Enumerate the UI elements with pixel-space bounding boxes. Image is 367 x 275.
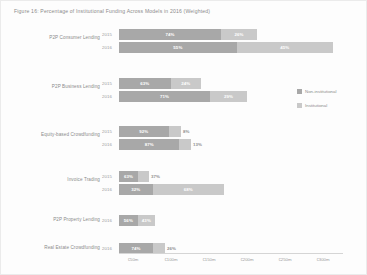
stacked-bar[interactable]: 74%26% xyxy=(119,29,257,40)
bar-value-label: 56% xyxy=(124,218,133,223)
category-label: Real Estate Crowdfunding xyxy=(44,245,100,250)
legend-item-institutional[interactable]: Institutional xyxy=(297,103,365,108)
bar-value-label: 24% xyxy=(181,81,190,86)
bar-segment-institutional[interactable]: 37% xyxy=(149,171,177,182)
year-label: 2016 xyxy=(102,45,112,50)
category-label: P2P Property Lending xyxy=(53,217,100,222)
stacked-bar[interactable]: 55%45% xyxy=(119,42,333,53)
year-label: 2016 xyxy=(102,94,112,99)
bar-value-label: 26% xyxy=(167,246,176,251)
bar-segment-institutional[interactable]: 13% xyxy=(191,139,219,150)
x-axis-line xyxy=(119,253,343,254)
bar-segment-institutional[interactable]: 68% xyxy=(153,184,224,195)
bar-segment-institutional[interactable]: 45% xyxy=(237,42,333,53)
bar-segment-non-institutional[interactable]: 71% xyxy=(119,91,210,102)
x-axis-tick-label: €200m xyxy=(240,257,253,262)
bar-value-label: 26% xyxy=(235,32,244,37)
bar-segment-non-institutional[interactable]: 32% xyxy=(119,184,153,195)
stacked-bar[interactable]: 63%37% xyxy=(119,171,149,182)
bar-value-label: 63% xyxy=(140,81,149,86)
bar-segment-non-institutional[interactable]: 63% xyxy=(119,171,138,182)
stacked-bar[interactable]: 56%43% xyxy=(119,215,155,226)
bar-segment-institutional-fill[interactable] xyxy=(138,171,149,182)
legend-label: Institutional xyxy=(305,103,327,108)
x-axis-tick-label: €50m xyxy=(128,257,139,262)
year-label: 2015 xyxy=(102,174,112,179)
x-axis-tick-label: €250m xyxy=(278,257,291,262)
bar-segment-institutional[interactable]: 29% xyxy=(210,91,247,102)
bar-value-label: 32% xyxy=(131,187,140,192)
year-label: 2015 xyxy=(102,32,112,37)
category-label: Invoice Trading xyxy=(67,177,100,182)
x-axis-tick-label: €100m xyxy=(164,257,177,262)
bar-segment-institutional-fill[interactable] xyxy=(179,139,191,150)
year-label: 2016 xyxy=(102,218,112,223)
bar-value-label: 43% xyxy=(142,218,151,223)
stacked-bar[interactable]: 92%8% xyxy=(119,126,181,137)
x-axis-tick-label: €300m xyxy=(316,257,329,262)
bar-segment-institutional[interactable]: 26% xyxy=(221,29,257,40)
bar-value-label: 87% xyxy=(145,142,154,147)
bar-value-label: 13% xyxy=(193,142,202,147)
stacked-bar[interactable]: 71%29% xyxy=(119,91,247,102)
legend-swatch-icon xyxy=(297,89,302,94)
year-label: 2015 xyxy=(102,129,112,134)
category-label: Equity-based Crowdfunding xyxy=(41,132,100,137)
legend-swatch-icon xyxy=(297,103,302,108)
bar-segment-institutional[interactable]: 43% xyxy=(138,215,155,226)
stacked-bar[interactable]: 63%24% xyxy=(119,78,201,89)
bar-segment-non-institutional[interactable]: 56% xyxy=(119,215,138,226)
chart-legend: Non-institutionalInstitutional xyxy=(297,89,365,117)
bar-value-label: 37% xyxy=(151,174,160,179)
bar-value-label: 29% xyxy=(224,94,233,99)
legend-item-non-institutional[interactable]: Non-institutional xyxy=(297,89,365,94)
x-axis-tick-label: €150m xyxy=(202,257,215,262)
figure-container: Figure 16: Percentage of Institutional F… xyxy=(0,0,367,275)
category-label: P2P Consumer Lending xyxy=(49,35,100,40)
stacked-bar[interactable]: 87%13% xyxy=(119,139,191,150)
year-label: 2016 xyxy=(102,187,112,192)
bar-value-label: 55% xyxy=(173,45,182,50)
year-label: 2016 xyxy=(102,246,112,251)
bar-segment-institutional-fill[interactable] xyxy=(169,126,181,137)
bar-segment-non-institutional[interactable]: 92% xyxy=(119,126,169,137)
bar-value-label: 71% xyxy=(160,94,169,99)
bar-segment-institutional[interactable]: 8% xyxy=(181,126,209,137)
bar-segment-non-institutional[interactable]: 87% xyxy=(119,139,179,150)
year-label: 2015 xyxy=(102,81,112,86)
legend-label: Non-institutional xyxy=(305,89,336,94)
bar-value-label: 92% xyxy=(139,129,148,134)
bar-segment-non-institutional[interactable]: 55% xyxy=(119,42,237,53)
bar-segment-non-institutional[interactable]: 74% xyxy=(119,29,221,40)
bar-value-label: 63% xyxy=(124,174,133,179)
chart-plot-area: P2P Consumer Lending201574%26%201655%45%… xyxy=(1,25,367,249)
bar-value-label: 68% xyxy=(184,187,193,192)
year-label: 2016 xyxy=(102,142,112,147)
bar-value-label: 45% xyxy=(280,45,289,50)
figure-title: Figure 16: Percentage of Institutional F… xyxy=(14,8,210,14)
category-label: P2P Business Lending xyxy=(52,84,100,89)
bar-value-label: 8% xyxy=(183,129,190,134)
stacked-bar[interactable]: 32%68% xyxy=(119,184,224,195)
bar-value-label: 74% xyxy=(131,246,140,251)
bar-value-label: 74% xyxy=(166,32,175,37)
bar-segment-institutional[interactable]: 24% xyxy=(171,78,201,89)
bar-segment-non-institutional[interactable]: 63% xyxy=(119,78,171,89)
